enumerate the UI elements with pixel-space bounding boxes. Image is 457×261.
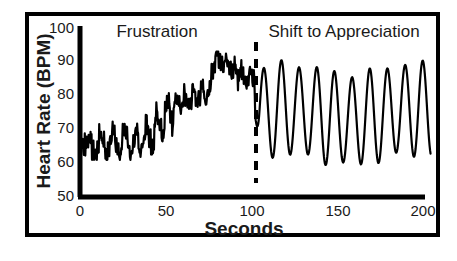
x-tick-label-200: 200 xyxy=(410,202,435,219)
y-tick-label-50: 50 xyxy=(57,187,74,204)
annotation-shift-to-appreciation: Shift to Appreciation xyxy=(268,22,419,41)
figure-frame: 100 90 80 70 60 50 0 50 100 150 200 Seco… xyxy=(25,12,440,237)
plot-area: 100 90 80 70 60 50 0 50 100 150 200 Seco… xyxy=(29,16,444,241)
x-tick-label-50: 50 xyxy=(158,202,175,219)
annotation-frustration: Frustration xyxy=(116,22,197,41)
x-tick-label-0: 0 xyxy=(76,202,84,219)
x-tick-label-100: 100 xyxy=(239,202,264,219)
y-axis-title: Heart Rate (BPM) xyxy=(33,33,54,188)
x-tick-label-150: 150 xyxy=(325,202,350,219)
y-tick-label-70: 70 xyxy=(57,119,74,136)
y-tick-label-90: 90 xyxy=(57,51,74,68)
x-axis-title: Seconds xyxy=(204,218,283,239)
heart-rate-chart: 100 90 80 70 60 50 0 50 100 150 200 Seco… xyxy=(29,16,444,241)
chart-screenshot: 100 90 80 70 60 50 0 50 100 150 200 Seco… xyxy=(0,0,457,261)
y-tick-label-60: 60 xyxy=(57,153,74,170)
y-tick-label-80: 80 xyxy=(57,85,74,102)
